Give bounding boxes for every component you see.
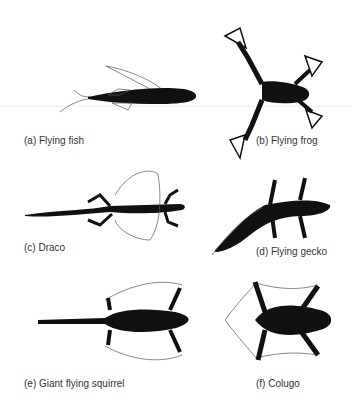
panel-label-e: (e) Giant flying squirrel	[24, 378, 125, 389]
colugo-icon	[225, 282, 331, 360]
silhouettes	[0, 0, 351, 409]
flying-fish-icon	[60, 66, 196, 112]
panel-label-b: (b) Flying frog	[256, 135, 318, 146]
panel-label-a: (a) Flying fish	[24, 135, 84, 146]
panel-label-d: (d) Flying gecko	[256, 246, 327, 257]
panel-label-c: (c) Draco	[24, 242, 65, 253]
flying-gecko-icon	[212, 178, 330, 255]
gliding-animals-figure: (a) Flying fish (b) Flying frog (c) Drac…	[0, 0, 351, 409]
giant-flying-squirrel-icon	[38, 282, 189, 360]
panel-label-f: (f) Colugo	[256, 378, 300, 389]
draco-icon	[25, 171, 185, 240]
